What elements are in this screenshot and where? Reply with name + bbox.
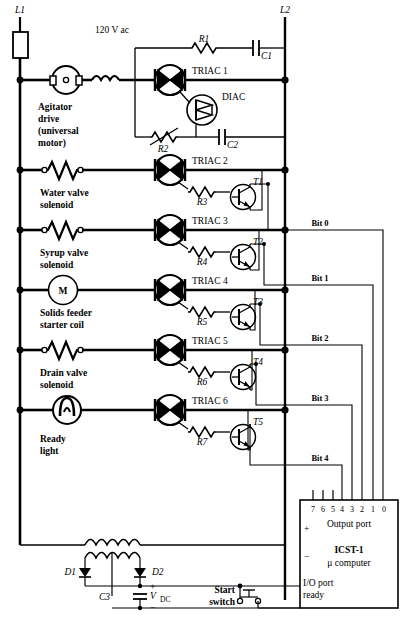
t4-label: T4 <box>253 357 263 367</box>
bit-2-label: Bit 2 <box>311 333 328 343</box>
start-switch-line-1: switch <box>209 597 236 607</box>
ready-lamp-icon <box>53 396 81 424</box>
pin-label-3: 3 <box>350 505 354 514</box>
triac-5-label: TRIAC 5 <box>192 336 228 346</box>
d2-label: D2 <box>151 567 164 577</box>
fuse-icon <box>13 32 28 58</box>
start-switch-contact-left[interactable] <box>237 598 242 603</box>
triac-4-icon <box>155 275 185 305</box>
bit-2-wire <box>300 345 362 500</box>
load-row-solids-feeder: M TRIAC 4 Solids feeder starter coil R5 … <box>17 275 300 345</box>
bit-4-label: Bit 4 <box>311 453 329 463</box>
pin-label-0: 0 <box>382 505 386 514</box>
io-ready-line-0: I/O port <box>303 578 334 588</box>
load-row-drain-valve: TRIAC 5 Drain valve solenoid R6 T4 <box>17 335 300 405</box>
computer-model-sub: μ computer <box>327 558 371 568</box>
diac-label: DIAC <box>222 92 245 102</box>
start-switch-line-0: Start <box>214 585 235 595</box>
bit-bus-wiring: Bit 0 Bit 1 Bit 2 Bit 3 Bit 4 <box>300 218 383 500</box>
bit-1-label: Bit 1 <box>311 273 328 283</box>
load-2-line-1: solenoid <box>40 260 74 270</box>
triac-1-icon <box>155 65 185 95</box>
load-5-line-1: light <box>40 446 59 456</box>
r7-label: R7 <box>196 437 209 447</box>
load-0-line-1: drive <box>38 114 59 124</box>
t5-label: T5 <box>253 417 263 427</box>
load-2-line-0: Syrup valve <box>40 248 88 258</box>
load-1-line-1: solenoid <box>40 200 74 210</box>
pin-label-5: 5 <box>331 505 335 514</box>
load-0-line-2: (universal <box>38 126 79 137</box>
d1-label: D1 <box>63 567 76 577</box>
computer-model-label: ICST-1 <box>334 545 363 555</box>
r4-label: R4 <box>196 257 208 267</box>
pin-label-1: 1 <box>371 505 375 514</box>
l1-label: L1 <box>14 5 25 15</box>
triac-5-icon <box>155 335 185 365</box>
syrup-valve-solenoid-icon <box>42 222 83 239</box>
load-5-line-0: Ready <box>40 434 66 444</box>
drain-valve-solenoid-icon <box>42 342 83 359</box>
load-4-line-0: Drain valve <box>40 368 87 378</box>
transistor-t3-icon <box>231 304 256 330</box>
load-0-line-3: motor) <box>38 138 66 149</box>
triac-1-label: TRIAC 1 <box>192 66 228 76</box>
transistor-t1-icon <box>231 184 256 210</box>
load-row-water-valve: TRIAC 2 Water valve solenoid R3 T1 <box>17 155 300 230</box>
output-port-label: Output port <box>327 519 371 529</box>
vdc-label: V <box>150 591 157 601</box>
vdc-plus-sign: + <box>150 582 155 592</box>
r5-label: R5 <box>196 317 208 327</box>
transformer-primary-icon <box>85 540 140 546</box>
load-3-line-1: starter coil <box>40 320 84 330</box>
t2-label: T2 <box>253 237 263 247</box>
triac-2-label: TRIAC 2 <box>192 156 228 166</box>
supply-plus-terminal: + <box>304 524 309 534</box>
transistor-t5-icon <box>231 424 256 450</box>
c1-label: C1 <box>261 51 272 61</box>
load-3-line-0: Solids feeder <box>40 308 93 318</box>
start-switch-group[interactable]: Start switch <box>209 584 300 608</box>
load-row-syrup-valve: TRIAC 3 Syrup valve solenoid R4 T2 <box>17 215 300 285</box>
pin-label-7: 7 <box>311 505 315 514</box>
transistor-t2-icon <box>231 244 256 270</box>
io-ready-line-1: ready <box>303 590 324 600</box>
schematic-canvas: L1 L2 120 V ac R1 C1 TRIAC 1 Agitator dr… <box>0 0 409 618</box>
series-inductor-icon <box>92 76 119 80</box>
triac-6-label: TRIAC 6 <box>192 396 228 406</box>
diode-d2-icon <box>134 568 146 577</box>
supply-voltage-label: 120 V ac <box>95 25 129 35</box>
microcomputer-block[interactable]: 7 6 5 4 3 2 1 0 Output port ICST-1 μ com… <box>300 490 398 608</box>
r2-label: R2 <box>157 144 169 154</box>
l2-label: L2 <box>279 5 290 15</box>
triac-3-label: TRIAC 3 <box>192 216 228 226</box>
pin-label-6: 6 <box>321 505 325 514</box>
motor-symbol-text: M <box>59 286 68 296</box>
load-0-line-0: Agitator <box>38 102 73 112</box>
supply-minus-terminal: − <box>304 552 309 562</box>
triac-4-label: TRIAC 4 <box>192 276 228 286</box>
bit-4-wire <box>300 465 342 500</box>
water-valve-solenoid-icon <box>42 162 83 179</box>
junction-dot <box>17 77 24 84</box>
load-4-line-1: solenoid <box>40 380 74 390</box>
load-1-line-0: Water valve <box>40 188 89 198</box>
triac-3-icon <box>155 215 185 245</box>
r1-label: R1 <box>198 34 210 44</box>
vdc-minus-sign: − <box>150 603 155 613</box>
diac-trigger-network: DIAC R2 C2 <box>135 80 285 154</box>
c2-label: C2 <box>227 140 238 150</box>
triac-6-icon <box>155 395 185 425</box>
c3-label: C3 <box>99 592 110 602</box>
bit-3-label: Bit 3 <box>311 393 328 403</box>
diode-d1-icon <box>79 568 91 577</box>
pin-label-2: 2 <box>360 505 364 514</box>
bit-0-label: Bit 0 <box>311 218 328 228</box>
r6-label: R6 <box>196 377 208 387</box>
pin-label-4: 4 <box>340 505 344 514</box>
vdc-sub-label: DC <box>160 595 170 604</box>
triac-2-icon <box>155 155 185 185</box>
r3-label: R3 <box>196 197 208 207</box>
